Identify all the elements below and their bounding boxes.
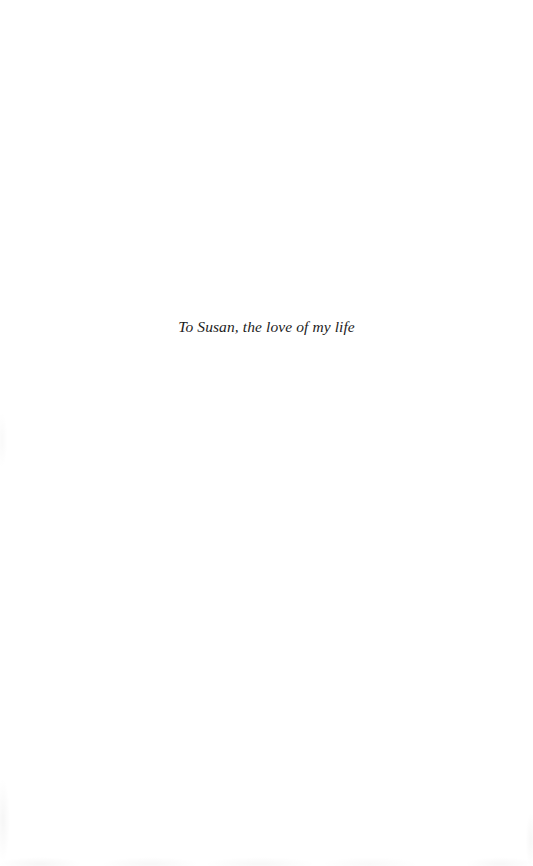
scan-artifact-bottom xyxy=(0,836,533,866)
book-page: To Susan, the love of my life xyxy=(0,0,533,866)
scan-artifact-right xyxy=(519,780,533,866)
scan-artifact-left xyxy=(0,380,14,866)
dedication-text: To Susan, the love of my life xyxy=(0,317,533,337)
